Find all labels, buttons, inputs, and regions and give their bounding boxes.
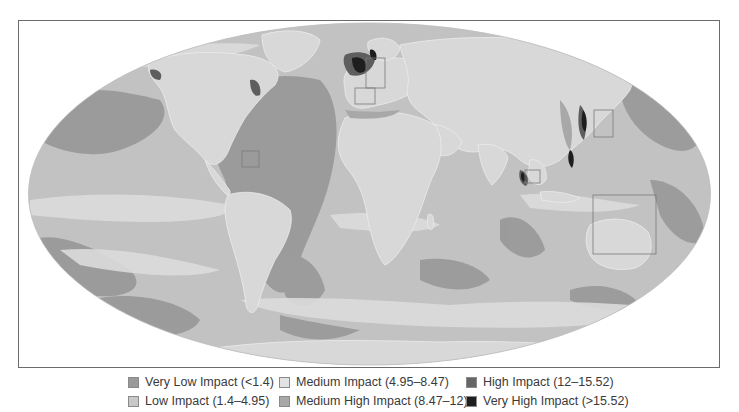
legend-label-medium-high: Medium High Impact (8.47–12) [296,394,468,408]
legend-swatch-high [466,377,477,388]
legend-item-low: Low Impact (1.4–4.95) [128,394,269,408]
legend-item-medium-high: Medium High Impact (8.47–12) [279,394,468,408]
legend-item-very-low: Very Low Impact (<1.4) [128,375,274,389]
legend-label-high: High Impact (12–15.52) [483,375,614,389]
legend-label-medium: Medium Impact (4.95–8.47) [296,375,449,389]
legend-item-high: High Impact (12–15.52) [466,375,614,389]
legend-swatch-very-low [128,377,139,388]
legend-swatch-very-high [466,396,477,407]
world-map [0,0,739,372]
legend-swatch-medium [279,377,290,388]
legend-swatch-low [128,396,139,407]
legend-label-very-high: Very High Impact (>15.52) [483,394,629,408]
legend: Very Low Impact (<1.4) Low Impact (1.4–4… [0,372,739,412]
legend-item-medium: Medium Impact (4.95–8.47) [279,375,449,389]
australia [586,219,651,269]
legend-item-very-high: Very High Impact (>15.52) [466,394,629,408]
legend-swatch-medium-high [279,396,290,407]
legend-label-low: Low Impact (1.4–4.95) [145,394,269,408]
legend-label-very-low: Very Low Impact (<1.4) [145,375,274,389]
